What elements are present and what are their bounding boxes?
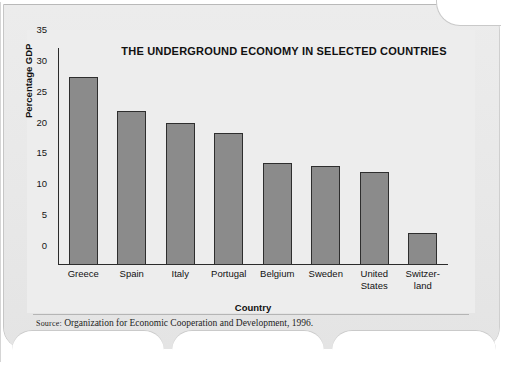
y-tick-label: 20 xyxy=(17,117,47,128)
x-tick-label-line: Sweden xyxy=(309,268,343,279)
y-tick-label: 15 xyxy=(17,147,47,158)
bar-spain xyxy=(117,111,146,265)
x-tick-label: Switzer-land xyxy=(399,268,448,291)
x-tick-label-line: Portugal xyxy=(211,268,246,279)
y-tick-label: 0 xyxy=(17,240,47,251)
bar-united-states xyxy=(360,172,389,265)
page-scallop-3 xyxy=(332,330,496,365)
x-tick-label: UnitedStates xyxy=(350,268,399,291)
bar-belgium xyxy=(263,163,292,265)
bar-greece xyxy=(69,77,98,265)
x-tick-label: Greece xyxy=(59,268,108,280)
x-tick-label-line: United xyxy=(361,268,388,279)
x-tick-label: Portugal xyxy=(205,268,254,280)
x-tick-label: Spain xyxy=(108,268,157,280)
bar-sweden xyxy=(311,166,340,265)
y-tick-label: 10 xyxy=(17,178,47,189)
y-tick-label: 25 xyxy=(17,86,47,97)
page-scallop-1 xyxy=(12,330,164,365)
bar-switzerland xyxy=(408,233,437,265)
bar-portugal xyxy=(214,133,243,265)
x-tick-label-line: Greece xyxy=(68,268,99,279)
scanned-page: THE UNDERGROUND ECONOMY IN SELECTED COUN… xyxy=(0,0,506,379)
y-tick-label: 5 xyxy=(17,209,47,220)
x-tick-label-line: land xyxy=(414,280,432,291)
x-tick-label-line: Belgium xyxy=(260,268,294,279)
source-text: Organization for Economic Cooperation an… xyxy=(64,318,313,328)
source-note: Source: Organization for Economic Cooper… xyxy=(36,318,313,328)
x-axis-title: Country xyxy=(59,302,447,313)
source-divider xyxy=(33,314,469,315)
bar-series xyxy=(59,48,447,265)
x-tick-label-line: Switzer- xyxy=(406,268,440,279)
bar-italy xyxy=(166,123,195,265)
x-tick-label-line: Italy xyxy=(172,268,189,279)
y-axis-ticks: 35302520151050 xyxy=(21,30,47,246)
x-axis-tick-labels: GreeceSpainItalyPortugalBelgiumSwedenUni… xyxy=(59,268,447,302)
x-tick-label: Italy xyxy=(156,268,205,280)
x-tick-label: Sweden xyxy=(302,268,351,280)
source-label: Source: xyxy=(36,319,62,328)
x-tick-label: Belgium xyxy=(253,268,302,280)
y-tick-label: 35 xyxy=(17,24,47,35)
x-tick-label-line: Spain xyxy=(120,268,144,279)
page-left-edge xyxy=(0,2,1,362)
x-tick-label-line: States xyxy=(361,280,388,291)
page-scallop-2 xyxy=(172,330,324,365)
chart-panel: THE UNDERGROUND ECONOMY IN SELECTED COUN… xyxy=(27,30,475,313)
y-tick-label: 30 xyxy=(17,55,47,66)
